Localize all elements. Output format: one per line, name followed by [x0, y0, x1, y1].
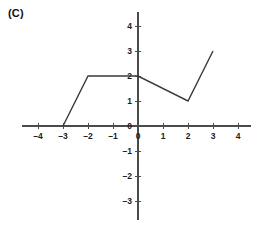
figure-panel: (C) –4–3–2–101234 –3–2–101234	[0, 0, 271, 226]
y-tick-label: 1	[127, 96, 132, 106]
x-tick-label: –1	[108, 131, 118, 141]
x-tick-label: –3	[58, 131, 68, 141]
x-tick-label: 1	[161, 131, 166, 141]
line-chart: –4–3–2–101234 –3–2–101234	[0, 0, 271, 226]
y-tick-label: 3	[127, 46, 132, 56]
y-tick-label: 4	[127, 21, 132, 31]
x-tick-label: –4	[33, 131, 43, 141]
y-tick-label: –1	[123, 146, 133, 156]
y-tick-label: 0	[127, 121, 132, 131]
axes	[22, 12, 251, 220]
y-tick-label: –3	[123, 196, 133, 206]
x-tick-label: –2	[83, 131, 93, 141]
x-tick-label: 3	[211, 131, 216, 141]
x-tick-label: 0	[136, 131, 141, 141]
x-tick-label: 4	[236, 131, 241, 141]
x-tick-label: 2	[186, 131, 191, 141]
y-tick-label: –2	[123, 171, 133, 181]
